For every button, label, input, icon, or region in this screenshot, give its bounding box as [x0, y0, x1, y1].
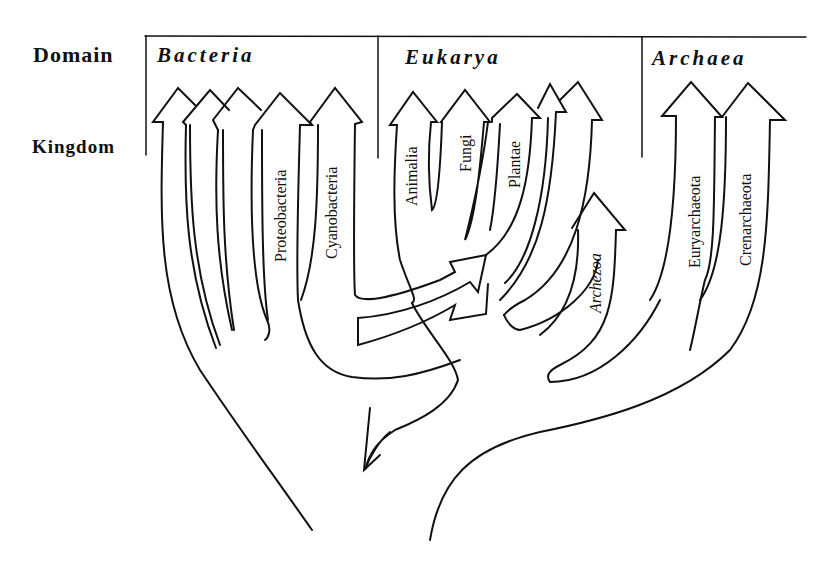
proteobacteria-arrow: [253, 93, 312, 130]
label-crenarchaeota: Crenarchaeota: [737, 174, 755, 266]
domain-frame: [145, 36, 806, 158]
bacteria-arrow-3: [213, 88, 261, 130]
label-animalia: Animalia: [403, 146, 421, 206]
bacteria-arrow-1: [153, 88, 196, 122]
crenarchaeota-arrow: [722, 83, 785, 120]
fungi-arrow: [441, 90, 490, 122]
diagram-drawing: [0, 0, 833, 565]
archezoa-arrow: [572, 193, 625, 230]
label-euryarchaeota: Euryarchaeota: [686, 176, 704, 268]
label-plantae: Plantae: [506, 141, 524, 188]
euryarchaeota-arrow: [662, 82, 722, 117]
tree-of-life-diagram: Domain Kingdom Bacteria Eukarya Archaea: [0, 0, 833, 565]
label-fungi: Fungi: [457, 135, 475, 172]
animalia-arrow: [390, 92, 437, 125]
label-archezoa: Archezoa: [587, 253, 605, 313]
cyanobacteria-arrow: [310, 88, 362, 125]
eukarya-trunk: [365, 303, 458, 470]
label-proteobacteria: Proteobacteria: [272, 170, 290, 262]
label-cyanobacteria: Cyanobacteria: [323, 167, 341, 259]
eukarya-arrow-5: [560, 82, 602, 120]
